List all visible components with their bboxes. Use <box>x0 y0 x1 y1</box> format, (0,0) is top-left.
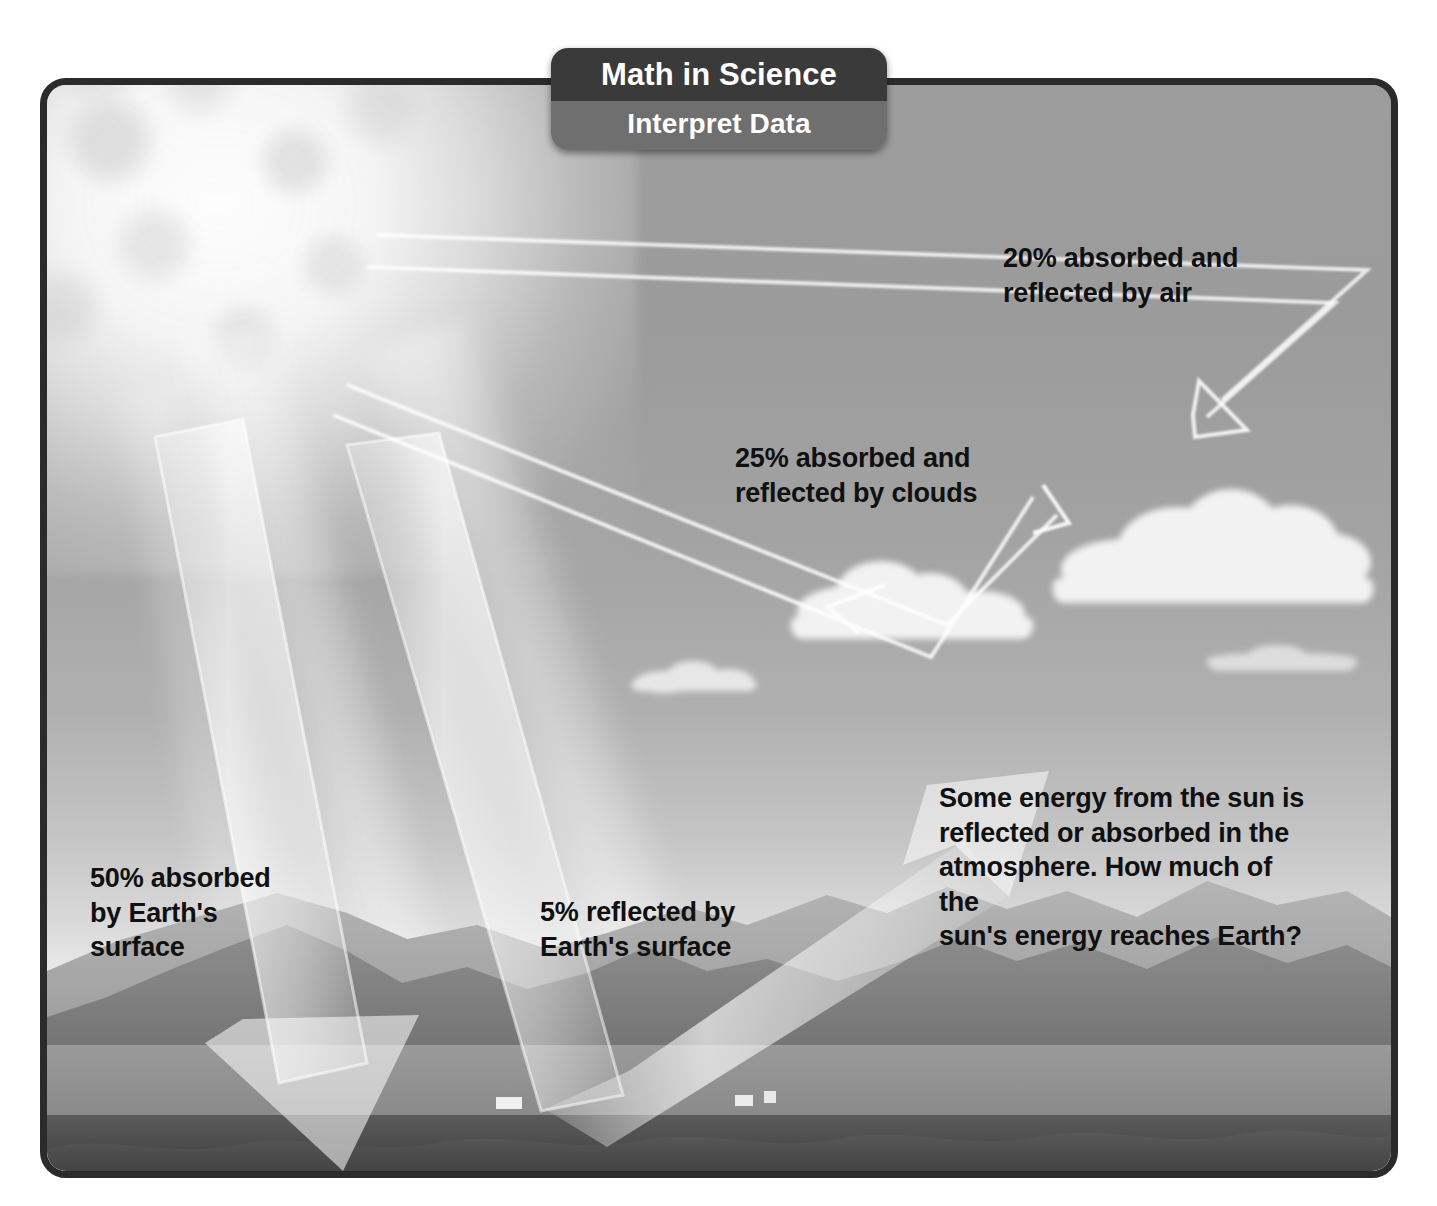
badge-subtitle: Interpret Data <box>551 101 887 150</box>
illustration-page: 20% absorbed and reflected by air 25% ab… <box>0 0 1437 1206</box>
label-5-percent-reflected: 5% reflected by Earth's surface <box>540 895 810 964</box>
question-text: Some energy from the sun is reflected or… <box>939 781 1309 954</box>
badge-title: Math in Science <box>551 48 887 101</box>
label-20-percent-air: 20% absorbed and reflected by air <box>1003 241 1323 310</box>
math-in-science-badge: Math in Science Interpret Data <box>551 48 887 150</box>
label-50-percent-absorbed: 50% absorbed by Earth's surface <box>90 861 330 965</box>
label-25-percent-clouds: 25% absorbed and reflected by clouds <box>735 441 1075 510</box>
scene-photograph: 20% absorbed and reflected by air 25% ab… <box>47 85 1391 1171</box>
photo-frame: 20% absorbed and reflected by air 25% ab… <box>40 78 1398 1178</box>
